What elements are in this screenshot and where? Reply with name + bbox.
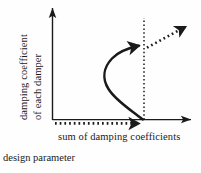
damping-coefficient-diagram: damping coefficient of each damper sum o… xyxy=(0,0,201,173)
solution-branch-curve xyxy=(104,46,142,120)
continuation-dotted-arrow xyxy=(147,27,185,48)
x-axis-label: sum of damping coefficients xyxy=(58,131,180,142)
y-axis-label-line-2: of each damper xyxy=(32,54,43,120)
figure-caption: design parameter xyxy=(3,152,75,163)
y-axis-label-line-1: damping coefficient xyxy=(18,34,29,120)
y-axis-label: damping coefficient of each damper xyxy=(2,8,44,120)
